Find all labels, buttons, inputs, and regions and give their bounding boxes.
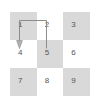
grid-cell-8[interactable]: 8	[37, 68, 64, 96]
grid-cell-label-3: 3	[71, 21, 75, 29]
grid-cell-2[interactable]: 2	[37, 12, 64, 40]
grid-cell-label-2: 2	[45, 21, 49, 29]
grid-cell-4[interactable]: 4	[10, 40, 37, 68]
grid-cell-label-4: 4	[18, 49, 22, 57]
grid-cell-3[interactable]: 3	[63, 12, 90, 40]
grid-cell-label-7: 7	[18, 77, 22, 85]
grid-cell-6[interactable]: 6	[63, 40, 90, 68]
grid-cell-9[interactable]: 9	[63, 68, 90, 96]
grid-cell-label-8: 8	[45, 77, 49, 85]
grid-cell-5[interactable]: 5	[37, 40, 64, 68]
grid-container: 1 2 3 4 5 6 7 8 9	[10, 12, 90, 96]
grid-cell-label-5: 5	[45, 49, 49, 57]
grid-cell-7[interactable]: 7	[10, 68, 37, 96]
grid-cell-label-9: 9	[71, 77, 75, 85]
grid-cell-label-1: 1	[18, 21, 22, 29]
grid-cell-label-6: 6	[71, 49, 75, 57]
grid-cell-1[interactable]: 1	[10, 12, 37, 40]
diagram-canvas: 1 2 3 4 5 6 7 8 9	[0, 0, 100, 106]
